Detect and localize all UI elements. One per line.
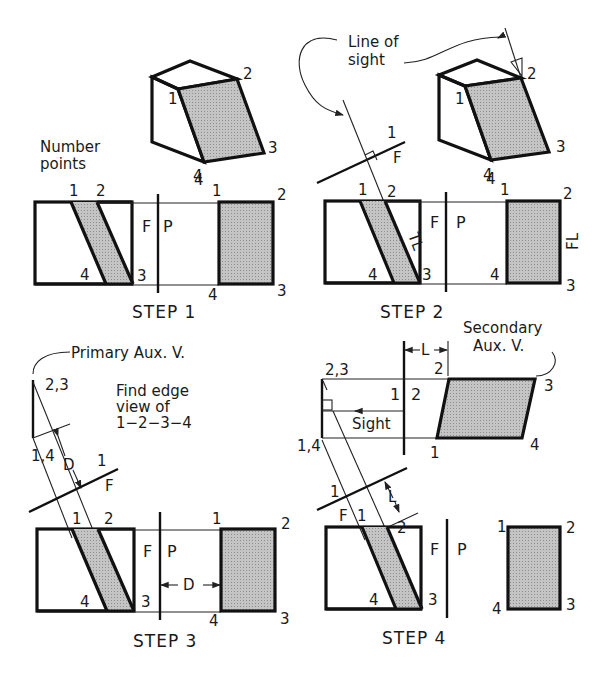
iso-label-2: 2 <box>527 65 537 83</box>
fold-label-f: F <box>143 542 152 561</box>
step2-isometric-block: 1 2 3 4 <box>439 60 566 184</box>
aux-label-1-4: 1,4 <box>297 437 321 455</box>
front-label-4: 4 <box>368 266 378 284</box>
step-3: Primary Aux. V. Find edge view of 1−2−3−… <box>29 344 291 651</box>
step2-profile-view: 1 2 3 4 4 FL <box>486 170 582 295</box>
profile-label-4-bottom: 4 <box>490 266 500 284</box>
secondary-label-4: 4 <box>530 436 540 454</box>
front-label-3: 3 <box>137 267 147 285</box>
iso-label-2: 2 <box>243 65 253 83</box>
profile-label-3: 3 <box>277 282 287 300</box>
front-label-3: 3 <box>428 591 438 609</box>
callout-secondary-aux-2: Aux. V. <box>473 337 524 355</box>
fold-label-f: F <box>430 213 439 232</box>
profile-label-4: 4 <box>209 612 219 630</box>
dimension-d-profile: D <box>183 576 195 594</box>
secondary-label-3: 3 <box>544 377 554 395</box>
step4-profile-view: 1 2 3 4 <box>492 518 576 618</box>
callout-line-of-sight-2: sight <box>348 51 385 69</box>
front-label-3: 3 <box>422 266 432 284</box>
step4-secondary-aux-view: 3 4 1 <box>430 377 554 462</box>
sight-label: Sight <box>352 415 391 433</box>
step3-front-view: 1 2 4 3 <box>37 510 151 611</box>
iso-label-1: 1 <box>455 90 465 108</box>
fold-label-p: P <box>457 540 467 559</box>
step-3-caption: STEP 3 <box>133 631 197 651</box>
callout-primary-aux-view: Primary Aux. V. <box>71 344 185 362</box>
step-1-caption: STEP 1 <box>132 302 196 322</box>
secondary-label-2: 2 <box>434 360 444 378</box>
callout-secondary-aux-1: Secondary <box>463 319 543 337</box>
fold-label-f: F <box>430 540 439 559</box>
step-1: 1 2 3 4 Number points 1 2 4 3 F P 1 <box>35 61 287 322</box>
profile-label-4-top: 4 <box>194 171 204 189</box>
fold-label-p: P <box>456 213 466 232</box>
fold-label-f: F <box>142 217 151 236</box>
profile-label-4: 4 <box>492 600 502 618</box>
step4-front-view: 2 4 3 <box>326 519 438 609</box>
fold-label-1: 1 <box>330 483 340 501</box>
fold-label-2: 2 <box>411 385 421 404</box>
step1-profile-view: 1 2 3 4 4 <box>194 171 287 304</box>
iso-label-1: 1 <box>168 90 178 108</box>
drawing-canvas: 1 2 3 4 Number points 1 2 4 3 F P 1 <box>0 0 614 678</box>
note-find-edge-3: 1−2−3−4 <box>116 414 192 432</box>
front-label-4: 4 <box>369 591 379 609</box>
front-label-4: 4 <box>80 266 90 284</box>
profile-label-3: 3 <box>566 596 576 614</box>
fold-label-p: P <box>167 542 177 561</box>
front-label-2: 2 <box>387 183 397 201</box>
fold-label-1: 1 <box>97 452 107 470</box>
profile-label-2: 2 <box>566 519 576 537</box>
fold-label-1: 1 <box>387 124 397 142</box>
fold-label-f: F <box>393 149 402 167</box>
profile-label-3: 3 <box>280 610 290 628</box>
profile-label-1: 1 <box>212 510 222 528</box>
fold-label-1-front: 1 <box>357 507 367 525</box>
callout-line-of-sight-1: Line of <box>348 33 399 51</box>
front-label-4: 4 <box>80 593 90 611</box>
profile-label-2: 2 <box>563 185 573 203</box>
aux-label-2-3: 2,3 <box>325 361 349 379</box>
step-4-caption: STEP 4 <box>382 628 446 648</box>
step-2: Line of sight 1 2 3 4 1 F <box>299 28 582 322</box>
fold-label-f: F <box>105 477 114 495</box>
fold-label-p: P <box>163 217 173 236</box>
front-label-1: 1 <box>69 182 79 200</box>
step1-front-view: 1 2 4 3 <box>35 182 147 285</box>
note-number-points-2: points <box>40 155 86 173</box>
dimension-l-secondary: L <box>421 341 430 359</box>
aux-label-2-3: 2,3 <box>45 376 69 394</box>
profile-label-2: 2 <box>277 186 287 204</box>
note-number-points-1: Number <box>40 138 101 156</box>
profile-label-4-top: 4 <box>486 170 496 188</box>
profile-label-2: 2 <box>281 515 291 533</box>
fold-line-1f <box>317 142 405 183</box>
iso-label-3: 3 <box>556 138 566 156</box>
fold-label-1: 1 <box>390 385 400 404</box>
step1-isometric-block: 1 2 3 4 <box>152 61 278 185</box>
dimension-l-primary: L <box>388 488 397 506</box>
front-label-2: 2 <box>96 182 106 200</box>
front-label-1: 1 <box>358 181 368 199</box>
front-label-1: 1 <box>72 510 82 528</box>
step3-profile-view: 1 2 3 4 <box>209 510 291 630</box>
front-label-2: 2 <box>397 519 407 537</box>
front-label-3: 3 <box>141 593 151 611</box>
step-4: Secondary Aux. V. L 1 2 Sight 2,3 1,4 2 … <box>297 319 576 648</box>
profile-label-3: 3 <box>566 277 576 295</box>
step2-front-view: 1 2 4 3 TL <box>325 181 432 284</box>
fold-label-f: F <box>339 507 348 525</box>
front-label-2: 2 <box>104 510 114 528</box>
step-2-caption: STEP 2 <box>380 302 444 322</box>
profile-label-1: 1 <box>212 182 222 200</box>
profile-label-1: 1 <box>500 181 510 199</box>
frontal-length-label: FL <box>564 232 582 250</box>
iso-label-3: 3 <box>268 139 278 157</box>
profile-label-1: 1 <box>497 518 507 536</box>
profile-label-4-bottom: 4 <box>208 286 218 304</box>
dimension-d-aux: D <box>63 456 75 474</box>
secondary-label-1: 1 <box>430 444 440 462</box>
